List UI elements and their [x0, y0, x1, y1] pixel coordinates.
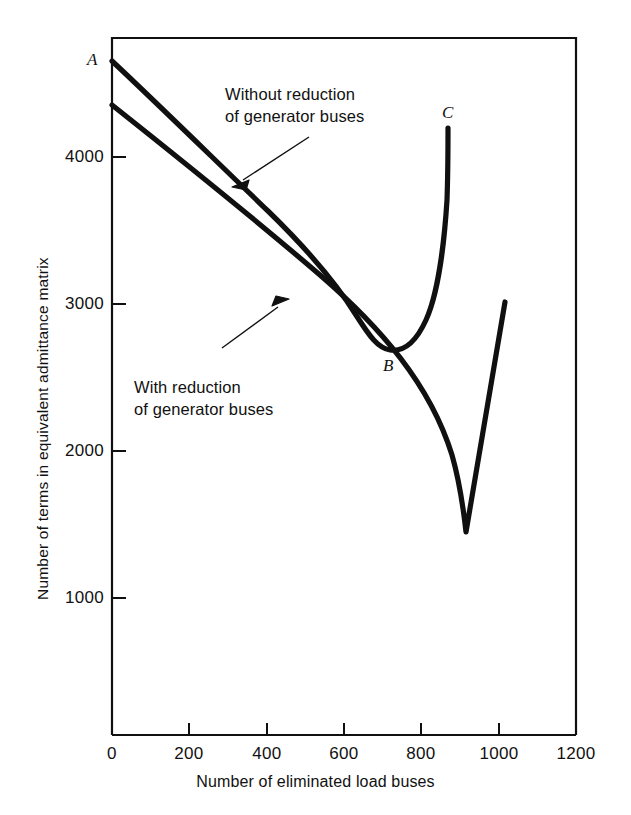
x-tick-marks [112, 723, 576, 735]
point-label-b: B [383, 356, 393, 376]
x-axis-title: Number of eliminated load buses [0, 773, 631, 792]
annotation-with-reduction-line1: With reduction [134, 378, 241, 397]
x-tick-label-800: 800 [386, 744, 456, 764]
x-tick-label-600: 600 [309, 744, 379, 764]
x-tick-label-1000: 1000 [464, 744, 534, 764]
annotation-arrow-without-reduction [232, 137, 309, 190]
x-tick-label-400: 400 [232, 744, 302, 764]
point-label-a: A [87, 50, 97, 70]
x-tick-label-200: 200 [154, 744, 224, 764]
annotation-with-reduction-line2: of generator buses [134, 400, 273, 419]
chart-figure: 4000 3000 2000 1000 0 200 400 600 800 10… [0, 0, 631, 815]
y-axis-title: Number of terms in equivalent admittance… [34, 257, 52, 600]
y-tick-label-4000: 4000 [34, 147, 104, 167]
x-tick-label-0: 0 [77, 744, 147, 764]
point-label-c: C [442, 103, 453, 123]
annotation-arrow-with-reduction [222, 296, 289, 348]
x-tick-label-1200: 1200 [541, 744, 611, 764]
annotation-without-reduction-line1: Without reduction [225, 85, 355, 104]
annotation-without-reduction-line2: of generator buses [225, 107, 364, 126]
y-tick-marks [112, 157, 126, 598]
